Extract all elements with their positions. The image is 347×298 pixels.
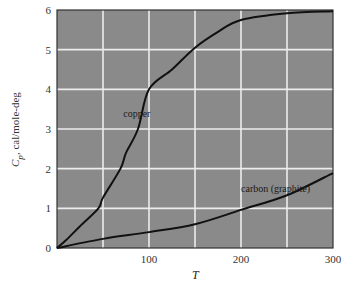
y-axis-ticks: 0123456 (46, 4, 52, 254)
y-axis-symbol: C (9, 160, 21, 167)
y-axis-subscript: p (15, 155, 25, 160)
x-tick-label: 300 (325, 253, 342, 265)
y-tick-label: 0 (46, 242, 52, 254)
y-tick-label: 4 (46, 83, 52, 95)
y-tick-label: 2 (46, 163, 52, 175)
curve-label: copper (123, 108, 151, 119)
y-tick-label: 6 (46, 4, 52, 16)
x-tick-label: 100 (141, 253, 158, 265)
y-tick-label: 1 (46, 202, 52, 214)
x-axis-ticks: 100200300 (141, 253, 342, 265)
chart: 100200300 0123456 coppercarbon (graphite… (0, 0, 347, 298)
x-axis-title: T (192, 268, 199, 283)
y-tick-label: 5 (46, 44, 52, 56)
y-tick-label: 3 (46, 123, 52, 135)
x-tick-label: 200 (233, 253, 250, 265)
y-axis-units: , cal/mole-deg (9, 92, 21, 155)
curve-label: carbon (graphite) (241, 183, 310, 195)
y-axis-title: Cp, cal/mole-deg (9, 65, 24, 195)
